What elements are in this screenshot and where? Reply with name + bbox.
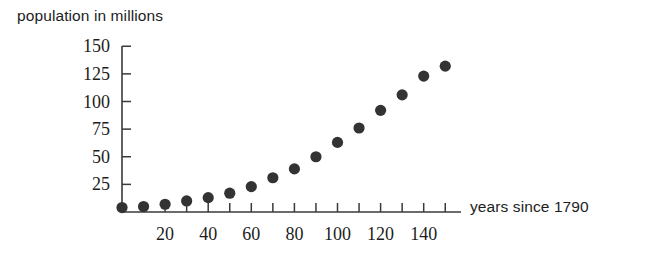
data-point (160, 199, 171, 210)
y-tick-label: 25 (92, 174, 110, 194)
x-tick-label: 100 (324, 224, 351, 244)
data-point (267, 172, 278, 183)
axes (122, 46, 461, 212)
y-tick-label: 75 (92, 119, 110, 139)
scatter-plot: 255075100125150 20406080100120140 (0, 0, 648, 259)
data-point (138, 201, 149, 212)
data-point (246, 181, 257, 192)
x-axis-ticks: 20406080100120140 (144, 203, 446, 244)
data-point (310, 151, 321, 162)
data-point (224, 188, 235, 199)
data-point (418, 70, 429, 81)
data-point (440, 61, 451, 72)
data-point (353, 122, 364, 133)
data-point (116, 202, 127, 213)
x-tick-label: 40 (199, 224, 217, 244)
x-tick-label: 20 (156, 224, 174, 244)
y-tick-label: 50 (92, 147, 110, 167)
x-tick-label: 60 (242, 224, 260, 244)
y-axis-ticks: 255075100125150 (83, 36, 131, 194)
x-tick-label: 120 (367, 224, 394, 244)
data-points (116, 61, 450, 214)
data-point (289, 163, 300, 174)
data-point (203, 192, 214, 203)
y-tick-label: 125 (83, 64, 110, 84)
y-tick-label: 100 (83, 92, 110, 112)
x-tick-label: 140 (410, 224, 437, 244)
chart-screenshot: population in millions years since 1790 … (0, 0, 648, 259)
data-point (375, 105, 386, 116)
x-tick-label: 80 (285, 224, 303, 244)
data-point (397, 89, 408, 100)
data-point (332, 137, 343, 148)
y-tick-label: 150 (83, 36, 110, 56)
data-point (181, 195, 192, 206)
